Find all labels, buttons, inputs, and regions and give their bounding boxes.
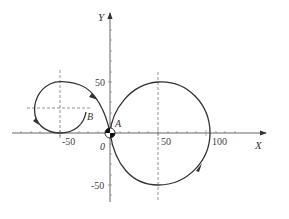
y-axis-label: Y — [98, 11, 106, 23]
point-b-label: B — [87, 111, 93, 122]
y-axis — [108, 13, 112, 202]
x-tick-50: 50 — [161, 136, 171, 147]
x-tick-minus50: -50 — [62, 136, 75, 147]
y-tick-50: 50 — [95, 77, 105, 88]
trajectory-diagram: Y X 0 A B -50 50 100 50 -50 — [0, 0, 289, 219]
point-a-label: A — [114, 118, 122, 129]
y-tick-minus50: -50 — [91, 180, 104, 191]
x-tick-100: 100 — [212, 136, 227, 147]
point-a-marker — [105, 128, 115, 138]
x-axis-label: X — [254, 139, 263, 151]
small-loop-curve — [33, 82, 110, 133]
origin-label: 0 — [100, 141, 105, 152]
